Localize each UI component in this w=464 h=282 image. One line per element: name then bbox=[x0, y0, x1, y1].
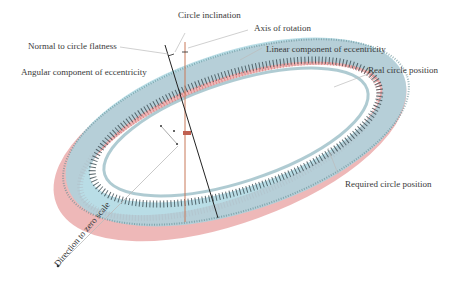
label-circle-inclination: Circle inclination bbox=[178, 10, 241, 20]
center-marker bbox=[183, 131, 191, 135]
label-linear-component: Linear component of eccentricity bbox=[266, 44, 386, 54]
label-real-circle-position: Real circle position bbox=[368, 65, 438, 75]
label-axis-of-rotation: Axis of rotation bbox=[254, 23, 311, 33]
label-angular-component: Angular component of eccentricity bbox=[21, 67, 147, 77]
angular-component-markers bbox=[160, 125, 178, 145]
label-required-circle-position: Required circle position bbox=[345, 179, 431, 189]
label-normal-to-circle-flatness: Normal to circle flatness bbox=[28, 41, 117, 51]
